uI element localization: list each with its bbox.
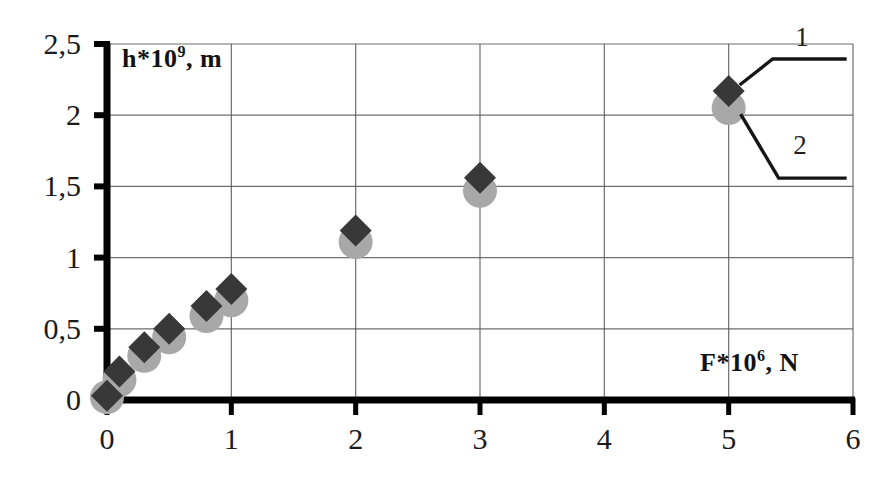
y-axis-tick-label: 1,5 bbox=[0, 169, 81, 203]
callout-label-1: 1 bbox=[795, 22, 809, 53]
x-axis-title: F*106, N bbox=[700, 348, 799, 378]
exponent: 9 bbox=[177, 43, 186, 60]
y-axis-tick-label: 2,5 bbox=[0, 27, 81, 61]
x-axis-tick-label: 5 bbox=[721, 422, 736, 456]
x-axis-tick-label: 0 bbox=[100, 422, 115, 456]
callout-label-2: 2 bbox=[793, 130, 807, 161]
y-axis-tick-label: 0 bbox=[0, 383, 81, 417]
x-axis-tick-label: 4 bbox=[597, 422, 612, 456]
y-axis-tick-label: 2 bbox=[0, 98, 81, 132]
y-axis-title: h*109, m bbox=[122, 44, 222, 74]
x-axis-tick-label: 6 bbox=[846, 422, 861, 456]
x-axis-tick-label: 1 bbox=[224, 422, 239, 456]
chart-figure: 00,511,522,50123456 h*109, m F*106, N 1 … bbox=[0, 0, 890, 489]
y-axis-tick-label: 1 bbox=[0, 241, 81, 275]
x-axis-tick-label: 3 bbox=[473, 422, 488, 456]
y-axis-tick-label: 0,5 bbox=[0, 312, 81, 346]
exponent: 6 bbox=[757, 347, 766, 364]
x-axis-tick-label: 2 bbox=[348, 422, 363, 456]
